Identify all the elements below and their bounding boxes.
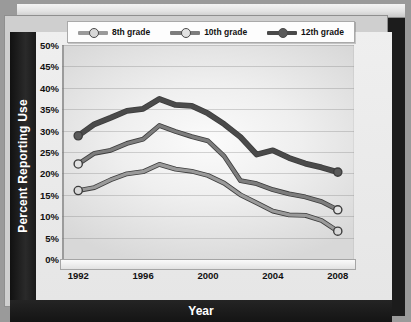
x-tick-label: 2008: [327, 270, 348, 281]
y-tick-label: 40%: [40, 82, 59, 93]
y-tick-label: 5%: [45, 232, 59, 243]
y-axis-ticks: 0%5%10%15%20%25%30%35%40%45%50%: [36, 45, 62, 259]
legend-item-10th-grade[interactable]: 10th grade: [170, 27, 247, 37]
plot-area: [62, 45, 354, 259]
y-tick-label: 50%: [40, 40, 59, 51]
y-tick-label: 35%: [40, 104, 59, 115]
x-tick-label: 2004: [262, 270, 283, 281]
y-tick-label: 30%: [40, 125, 59, 136]
x-axis-title: Year: [188, 304, 213, 318]
x-tick-label: 2000: [197, 270, 218, 281]
legend-swatch-icon: [170, 28, 200, 37]
series-line: [78, 125, 338, 209]
series-endpoint-marker: [334, 168, 342, 176]
legend-label: 12th grade: [301, 27, 344, 37]
series-endpoint-marker: [74, 132, 82, 140]
series-endpoint-marker: [74, 160, 82, 168]
series-endpoint-marker: [334, 206, 342, 214]
y-tick-label: 20%: [40, 168, 59, 179]
legend-label: 8th grade: [112, 27, 150, 37]
x-axis-ticks: 19921996200020042008: [62, 270, 354, 286]
x-tick-label: 1996: [133, 270, 154, 281]
y-tick-label: 10%: [40, 211, 59, 222]
x-axis-shelf: [60, 259, 356, 270]
x-axis-title-band: Year: [10, 300, 392, 322]
chart-legend: 8th grade 10th grade 12th grade: [67, 21, 355, 43]
series-line: [78, 99, 338, 172]
y-tick-label: 0%: [45, 254, 59, 265]
series-endpoint-marker: [334, 227, 342, 235]
y-tick-label: 45%: [40, 61, 59, 72]
legend-label: 10th grade: [204, 27, 247, 37]
chart-panel: Percent Reporting Use Year 8th grade 10t…: [5, 16, 387, 306]
x-tick-label: 1992: [68, 270, 89, 281]
y-axis-title: Percent Reporting Use: [16, 99, 30, 233]
chart-screenshot: Percent Reporting Use Year 8th grade 10t…: [0, 0, 411, 322]
legend-swatch-icon: [267, 28, 297, 37]
series-endpoint-marker: [74, 186, 82, 194]
legend-item-8th-grade[interactable]: 8th grade: [78, 27, 150, 37]
y-axis-title-band: Percent Reporting Use: [10, 32, 36, 300]
legend-item-12th-grade[interactable]: 12th grade: [267, 27, 344, 37]
y-tick-label: 15%: [40, 189, 59, 200]
legend-swatch-icon: [78, 28, 108, 37]
y-tick-label: 25%: [40, 147, 59, 158]
series-lines: [62, 45, 354, 259]
